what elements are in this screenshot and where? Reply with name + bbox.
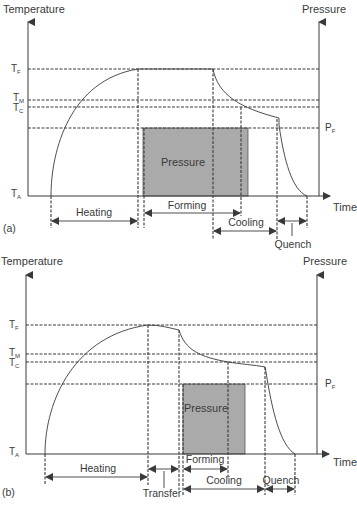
panel-b: Pressure Temperature Pressure Time TF TM… [1, 255, 357, 499]
level-tf-label: TF [11, 63, 21, 75]
phase-heating-label: Heating [76, 206, 112, 218]
level-ta-label: TA [9, 446, 19, 458]
phase-transfer-label: Transfer [143, 487, 182, 499]
level-pf-label: PF [325, 122, 336, 134]
level-lines [26, 325, 317, 384]
temperature-axis-label: Temperature [3, 3, 65, 15]
level-pf-label: PF [325, 378, 336, 390]
phase-quench-label: Quench [275, 238, 312, 250]
time-axis-label: Time [333, 201, 357, 213]
phase-cooling-label: Cooling [206, 474, 242, 486]
panel-b-tag: (b) [2, 486, 15, 498]
pressure-axis-label: Pressure [303, 255, 347, 267]
level-ta-label: TA [11, 188, 21, 200]
pressure-box-label: Pressure [184, 402, 228, 414]
level-tf-label: TF [9, 319, 19, 331]
phase-cooling-label: Cooling [228, 216, 264, 228]
phase-forming-label: Forming [168, 199, 207, 211]
time-axis-label: Time [333, 456, 357, 468]
phase-heating-label: Heating [80, 462, 116, 474]
pressure-box [183, 384, 245, 454]
panel-a: Pressure Temperature Pressure Time TF TM… [3, 3, 357, 250]
level-lines [28, 69, 319, 128]
pressure-box-label: Pressure [161, 156, 205, 168]
pressure-axis-label: Pressure [302, 3, 346, 15]
process-diagram: Pressure Temperature Pressure Time TF TM… [0, 0, 357, 505]
temperature-axis-label: Temperature [1, 255, 63, 267]
phase-quench-label: Quench [263, 474, 300, 486]
panel-a-tag: (a) [3, 222, 16, 234]
temperature-curve [45, 325, 295, 454]
phase-forming-label: Forming [186, 453, 225, 465]
